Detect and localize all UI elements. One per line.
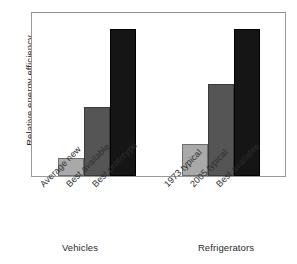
tick-labels-layer: Average new Best available Best prototyp… xyxy=(0,0,297,264)
group-label-refrigerators: Refrigerators xyxy=(176,242,276,253)
group-label-vehicles: Vehicles xyxy=(40,242,120,253)
chart-figure: Relative energy efficiency Average new B… xyxy=(0,0,297,264)
